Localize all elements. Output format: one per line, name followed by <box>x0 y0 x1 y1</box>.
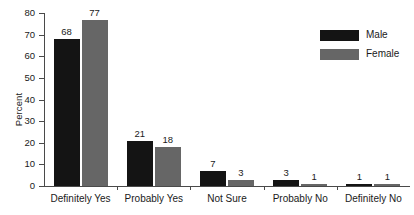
x-axis-category-label: Probably No <box>264 193 337 204</box>
bar-female-4 <box>374 184 400 186</box>
bar-male-1 <box>127 141 153 186</box>
bar-value-label: 77 <box>76 8 114 18</box>
bar-value-label: 18 <box>149 135 187 145</box>
y-tick-label: 20 <box>0 138 35 148</box>
y-tick-label: 30 <box>0 116 35 126</box>
legend-swatch-icon <box>320 30 359 41</box>
bar-female-2 <box>228 180 254 186</box>
x-axis-category-label: Definitely No <box>337 193 410 204</box>
x-tick-mark <box>190 186 191 190</box>
y-tick-label: 80 <box>0 8 35 18</box>
bar-value-label: 3 <box>222 168 260 178</box>
y-tick-mark <box>39 186 44 187</box>
legend-swatch-icon <box>320 49 359 60</box>
y-tick-label: 70 <box>0 30 35 40</box>
y-tick-label: 60 <box>0 51 35 61</box>
y-tick-label: 40 <box>0 95 35 105</box>
y-tick-label: 0 <box>0 181 35 191</box>
bar-value-label: 1 <box>295 172 333 182</box>
legend-item-male: Male <box>320 27 399 43</box>
bar-male-0 <box>54 39 80 186</box>
bar-female-1 <box>155 147 181 186</box>
legend-label: Female <box>366 49 399 59</box>
bar-female-0 <box>82 20 108 187</box>
x-axis-category-label: Probably Yes <box>117 193 190 204</box>
x-tick-mark <box>337 186 338 190</box>
x-axis-category-label: Definitely Yes <box>44 193 117 204</box>
x-tick-mark <box>117 186 118 190</box>
bar-value-label: 1 <box>368 172 406 182</box>
bar-female-3 <box>301 184 327 186</box>
bar-male-4 <box>346 184 372 186</box>
legend: MaleFemale <box>320 27 399 65</box>
legend-item-female: Female <box>320 46 399 62</box>
bar-value-label: 68 <box>48 27 86 37</box>
legend-label: Male <box>366 30 388 40</box>
bar-chart: Percent 01020304050607080 68772118733111… <box>0 0 414 215</box>
x-axis-category-label: Not Sure <box>190 193 263 204</box>
x-tick-mark <box>264 186 265 190</box>
y-tick-label: 50 <box>0 73 35 83</box>
y-tick-label: 10 <box>0 159 35 169</box>
x-axis-line <box>44 186 410 187</box>
